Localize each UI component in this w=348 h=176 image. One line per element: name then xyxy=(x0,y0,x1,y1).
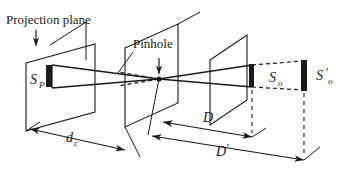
projection-plane-label: Projection plane xyxy=(6,12,91,27)
dc-leader-right xyxy=(125,127,140,157)
droplines-group xyxy=(252,90,304,153)
dc-spacer xyxy=(40,112,95,122)
dc-label-group: d c xyxy=(66,130,78,148)
dimension-dc xyxy=(26,112,140,157)
so-label-subscript: o xyxy=(278,78,283,88)
so-label-group: S o xyxy=(269,70,283,88)
dc-label-subscript: c xyxy=(74,138,78,148)
so-prime-subscript: o xyxy=(328,76,333,86)
Dprime-label-group: D ' xyxy=(215,141,229,159)
diagram-canvas: Projection plane Pinhole S P S o S ' o d… xyxy=(0,0,348,176)
object-plane-shape xyxy=(210,35,247,125)
dc-label: d xyxy=(66,130,74,145)
sp-label: S xyxy=(30,72,37,87)
D-label: D xyxy=(202,110,213,125)
Dprime-mark: ' xyxy=(226,141,229,155)
so-prime-label-group: S ' o xyxy=(316,65,333,86)
right-cone-top-edge xyxy=(159,65,252,79)
so-prime-bar xyxy=(301,60,307,91)
so-prime-label: S xyxy=(316,68,323,83)
projection-plane-callout xyxy=(36,22,86,60)
pinhole-diagram-figure: Projection plane Pinhole S P S o S ' o d… xyxy=(0,0,348,176)
pinhole-plane-leader-top xyxy=(178,12,200,24)
pinhole-label: Pinhole xyxy=(133,36,173,51)
dimension-Dprime xyxy=(152,136,320,160)
so-label: S xyxy=(269,70,276,85)
sp-bar xyxy=(46,65,52,87)
so-bar xyxy=(249,64,254,87)
D-leader-left xyxy=(148,79,159,135)
projection-image-bar-group xyxy=(46,65,52,87)
Dprime-label: D xyxy=(215,144,226,159)
object-plane-outline xyxy=(210,35,247,125)
right-projection-cone xyxy=(159,65,252,87)
right-cone-bottom-edge xyxy=(159,79,252,87)
sp-label-subscript: P xyxy=(38,80,45,90)
D-leader-right xyxy=(252,128,266,137)
sp-label-group: S P xyxy=(30,72,45,90)
Dprime-leader-right xyxy=(304,147,320,160)
dashed-far-upper xyxy=(252,61,303,65)
left-cone-bottom-edge xyxy=(52,79,159,88)
